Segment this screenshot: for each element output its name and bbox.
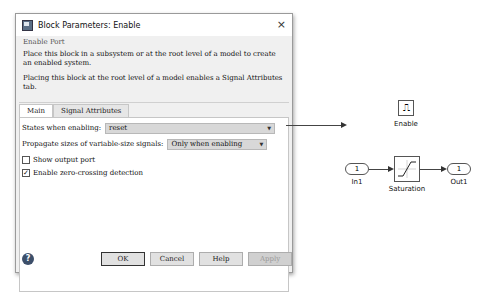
chevron-down-icon: ▼ [260, 141, 264, 147]
callout-arrowhead [341, 122, 347, 128]
cancel-button[interactable]: Cancel [150, 252, 194, 266]
help-icon[interactable]: ? [22, 253, 34, 265]
enable-label: Enable [388, 120, 424, 128]
chevron-down-icon: ▼ [267, 125, 271, 131]
zero-crossing-checkbox[interactable]: ✓ [22, 169, 30, 177]
saturation-label: Saturation [384, 185, 430, 193]
in1-label: In1 [345, 178, 369, 186]
propagate-value: Only when enabling [171, 140, 242, 148]
zero-crossing-row: ✓ Enable zero-crossing detection [22, 166, 286, 179]
description-text-2: Placing this block at the root level of … [23, 74, 285, 92]
signal-line-2 [420, 169, 442, 170]
help-button[interactable]: Help [199, 252, 243, 266]
enable-block[interactable]: ⎍ [398, 100, 414, 116]
title-bar[interactable]: Block Parameters: Enable × [16, 14, 292, 36]
apply-button[interactable]: Apply [248, 252, 292, 266]
dialog-title: Block Parameters: Enable [38, 21, 140, 30]
out1-label: Out1 [445, 178, 473, 186]
states-row: States when enabling: reset ▼ [22, 121, 286, 135]
saturation-block[interactable] [394, 156, 420, 182]
show-output-port-label: Show output port [33, 156, 95, 164]
signal-line-1 [369, 169, 389, 170]
propagate-label: Propagate sizes of variable-size signals… [22, 140, 163, 148]
in1-number: 1 [355, 165, 359, 173]
states-dropdown[interactable]: reset ▼ [105, 123, 275, 134]
description-group: Enable Port Place this block in a subsys… [19, 36, 289, 103]
in1-port[interactable]: 1 [345, 163, 369, 175]
tab-bar: Main Signal Attributes [19, 104, 289, 117]
block-parameters-dialog: Block Parameters: Enable × Enable Port P… [15, 13, 293, 273]
show-output-port-row: Show output port [22, 153, 286, 166]
out1-port[interactable]: 1 [447, 163, 471, 175]
propagate-row: Propagate sizes of variable-size signals… [22, 137, 286, 151]
pulse-icon: ⎍ [403, 102, 410, 113]
close-button[interactable]: × [277, 18, 286, 31]
description-text: Place this block in a subsystem or at th… [23, 50, 285, 68]
button-bar: ? OK Cancel Help Apply [16, 246, 292, 272]
ok-button[interactable]: OK [101, 252, 145, 266]
saturation-icon [395, 157, 419, 181]
out1-number: 1 [457, 165, 461, 173]
propagate-dropdown[interactable]: Only when enabling ▼ [167, 139, 267, 150]
tab-signal-attributes[interactable]: Signal Attributes [53, 104, 129, 117]
callout-line [286, 125, 341, 126]
tab-main[interactable]: Main [19, 104, 53, 117]
states-value: reset [109, 124, 127, 132]
states-label: States when enabling: [22, 124, 101, 132]
zero-crossing-label: Enable zero-crossing detection [33, 169, 143, 177]
group-title: Enable Port [23, 38, 285, 46]
show-output-port-checkbox[interactable] [22, 156, 30, 164]
simulink-icon [22, 20, 33, 31]
